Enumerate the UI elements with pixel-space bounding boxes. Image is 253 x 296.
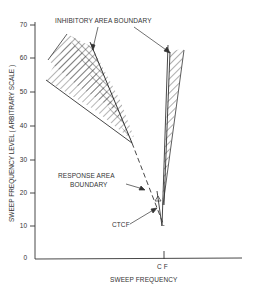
y-tick-20: 20: [13, 189, 27, 196]
y-tick-30: 30: [13, 156, 27, 163]
inhibitory-boundary-label: INHIBITORY AREA BOUNDARY: [55, 17, 152, 24]
right-inhibitory-region: [157, 45, 184, 226]
y-tick-50: 50: [13, 88, 27, 95]
y-axis-label: SWEEP FREQUENCY LEVEL ( ARBITRARY SCALE …: [8, 65, 15, 222]
y-tick-40: 40: [13, 122, 27, 129]
left-inhibitory-region: [46, 34, 135, 143]
x-axis: [35, 251, 242, 259]
y-tick-0: 0: [13, 254, 27, 261]
y-tick-10: 10: [13, 222, 27, 229]
y-tick-60: 60: [13, 54, 27, 61]
diagram-canvas: [0, 0, 253, 296]
x-axis-label: SWEEP FREQUENCY: [110, 276, 177, 283]
cf-label: C F: [157, 263, 168, 270]
y-axis: [30, 22, 35, 259]
response-boundary-label-1: RESPONSE AREA: [58, 172, 115, 179]
y-tick-70: 70: [13, 21, 27, 28]
ctcf-label: CTCF: [112, 221, 130, 228]
response-boundary-label-2: BOUNDARY: [70, 181, 108, 188]
annotation-arrows: [91, 27, 170, 224]
